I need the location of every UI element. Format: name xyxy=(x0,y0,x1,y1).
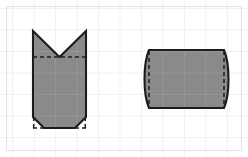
figure-canvas xyxy=(0,0,248,157)
right-figure xyxy=(145,50,229,108)
right-figure-fill xyxy=(145,50,229,108)
geometry-figure-stage xyxy=(0,0,248,157)
